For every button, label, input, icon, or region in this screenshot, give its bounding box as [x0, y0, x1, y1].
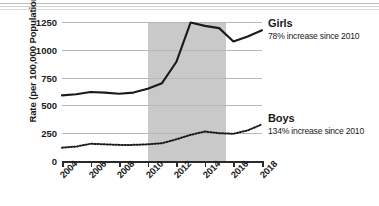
annotation-boys: Boys 134% increase since 2010	[268, 112, 379, 137]
annotation-girls: Girls 78% increase since 2010	[268, 17, 379, 42]
scan-rule-bottom	[0, 9, 379, 10]
y-axis-tick-label: 500	[41, 100, 57, 111]
y-axis-tick-label: 250	[41, 128, 57, 139]
y-axis-tick-label: 1250	[36, 17, 57, 28]
y-axis-tick-label: 0	[52, 156, 57, 167]
scan-rule-top	[0, 3, 379, 4]
series-plot	[62, 22, 262, 161]
scan-rule-middle	[0, 6, 379, 7]
chart-figure: Rate (per 100,000 Population) 1250100075…	[0, 0, 379, 206]
x-axis-tick	[91, 161, 93, 167]
plot-area: 125010007505002500 200420062008201020122…	[62, 22, 262, 161]
annotation-boys-title: Boys	[268, 112, 379, 125]
annotation-girls-title: Girls	[268, 17, 379, 30]
series-line-girls	[62, 23, 262, 96]
annotation-girls-subtitle: 78% increase since 2010	[268, 30, 379, 42]
y-axis-tick-label: 750	[41, 72, 57, 83]
series-line-boys	[62, 124, 262, 147]
annotation-boys-subtitle: 134% increase since 2010	[268, 125, 379, 137]
y-axis-tick-label: 1000	[36, 44, 57, 55]
